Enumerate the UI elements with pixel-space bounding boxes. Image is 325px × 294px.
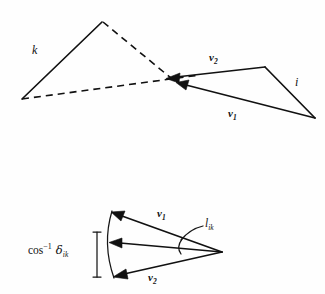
label-angle-cos-inv-delta: cos−1δik — [28, 243, 68, 259]
figure-container: k i v2 v1 v1 v2 lik cos−1δik — [0, 0, 325, 294]
label-upper-v2: v2 — [209, 52, 218, 66]
label-k: k — [32, 44, 37, 56]
apex-angle-arc — [179, 239, 182, 254]
k-dashed-upper-edge — [103, 22, 177, 83]
label-l-ik-sub: ik — [208, 223, 213, 232]
i-edge — [265, 67, 315, 118]
lower-v2-arrowhead — [113, 269, 128, 279]
k-solid-edge — [22, 22, 102, 99]
label-i: i — [295, 76, 298, 88]
lower-v1-arrowhead — [111, 211, 125, 221]
v2-vector-shaft — [176, 67, 265, 77]
label-upper-v2-sub: 2 — [214, 57, 218, 66]
label-lower-v2-sub: 2 — [153, 277, 157, 286]
v1-vector-shaft — [186, 85, 315, 118]
label-lower-v1-sub: 1 — [162, 213, 166, 222]
v2-arrowhead — [166, 73, 180, 83]
label-lower-v2: v2 — [148, 272, 157, 286]
label-angle-exponent: −1 — [43, 242, 52, 251]
upper-panel-group — [22, 22, 315, 118]
label-upper-v1: v1 — [228, 108, 237, 122]
label-angle-sub: ik — [63, 250, 68, 259]
label-upper-v1-sub: 1 — [233, 113, 237, 122]
lower-middle-arrowhead — [109, 238, 122, 248]
lower-v2-shaft — [124, 252, 222, 274]
label-angle-fn: cos — [28, 244, 43, 256]
label-lower-v1: v1 — [157, 208, 166, 222]
lower-middle-shaft — [120, 243, 222, 252]
label-angle-delta: δ — [56, 243, 63, 257]
label-l-ik: lik — [205, 218, 214, 232]
